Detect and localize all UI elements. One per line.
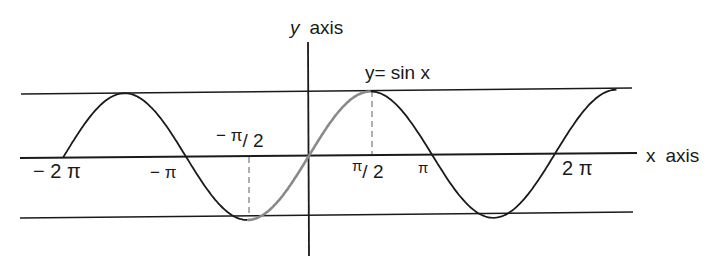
- x-axis: [20, 153, 637, 158]
- tick-label-neg-pi: − π: [150, 163, 176, 182]
- upper-bound-line: [21, 88, 632, 94]
- tick-label-pi: π: [418, 159, 428, 176]
- curve-label: y= sin x: [365, 62, 430, 83]
- tick-label-half-pi: π/ 2: [352, 157, 383, 182]
- sine-diagram: yaxis xaxis y= sin x − 2 π − π − π/ 2 π/…: [0, 0, 712, 267]
- lower-bound-line: [20, 212, 633, 218]
- tick-label-neg-two-pi: − 2 π: [33, 160, 81, 182]
- x-axis-label: xaxis: [646, 145, 699, 166]
- tick-label-neg-half-pi: − π/ 2: [216, 126, 264, 151]
- tick-label-two-pi: 2 π: [562, 157, 592, 179]
- y-axis-label: yaxis: [288, 17, 343, 38]
- y-axis: [308, 42, 309, 256]
